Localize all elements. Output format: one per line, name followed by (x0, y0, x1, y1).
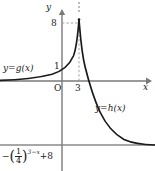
formula-close-paren: ) (22, 149, 27, 163)
y-axis-label: y (46, 3, 51, 12)
formula-leading-sign: − (2, 151, 10, 161)
origin-label: O (54, 84, 61, 93)
x-tick-label-3: 3 (75, 84, 81, 93)
formula-denominator: 4 (15, 157, 22, 165)
x-axis-label: x (143, 83, 148, 92)
asymptote-formula-label: −(14)3−x+8 (2, 148, 53, 166)
formula-tail: +8 (40, 151, 53, 161)
y-tick-label-8: 8 (51, 19, 57, 28)
y-axis-arrowhead (59, 9, 65, 15)
curve-label-h: y=h(x) (95, 104, 126, 113)
formula-fraction: 14 (15, 148, 22, 166)
y-tick-label-1: 1 (54, 62, 60, 71)
curve-label-g: y=g(x) (3, 64, 34, 73)
formula-exponent: 3−x (28, 148, 40, 155)
